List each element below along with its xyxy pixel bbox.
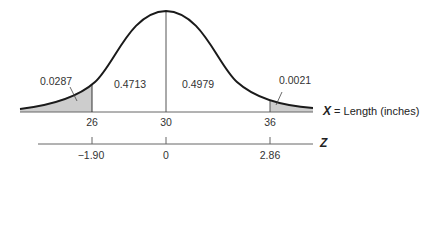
x-axis-variable: X [323,104,331,118]
x-tick-30: 30 [160,116,172,128]
z-tick-label-pos: 2.86 [260,149,280,161]
z-axis-variable: Z [320,136,327,150]
z-tick-label-neg: −1.90 [78,149,105,161]
x-tick-26: 26 [86,116,98,128]
area-label-right-center: 0.4979 [182,78,214,90]
z-axis-title: Z [320,136,327,150]
x-axis-title: X = Length (inches) [323,104,419,118]
area-label-left-center: 0.4713 [114,78,146,90]
z-tick-label-zero: 0 [163,149,169,161]
x-tick-36: 36 [264,116,276,128]
area-label-left-tail: 0.0287 [40,75,72,87]
area-label-right-tail: 0.0021 [279,74,311,86]
x-axis-description: = Length (inches) [334,105,419,117]
